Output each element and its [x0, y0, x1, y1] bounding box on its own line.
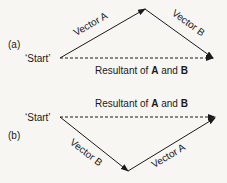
resultant-b: B	[181, 98, 188, 109]
resultant-label: Resultant of A and B	[95, 66, 188, 76]
resultant-prefix: Resultant of	[95, 65, 151, 76]
resultant-and: and	[158, 98, 180, 109]
resultant-label: Resultant of A and B	[95, 99, 188, 109]
diagram-a-label: (a)	[8, 40, 20, 50]
start-label: ‘Start’	[25, 113, 51, 123]
vector-a-arrow	[128, 118, 215, 171]
start-label: ‘Start’	[25, 54, 51, 64]
resultant-b: B	[181, 65, 188, 76]
resultant-and: and	[158, 65, 180, 76]
resultant-prefix: Resultant of	[95, 98, 151, 109]
diagram-b-label: (b)	[8, 131, 20, 141]
